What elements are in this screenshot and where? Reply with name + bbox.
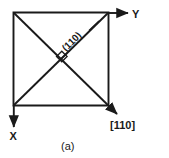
figure-canvas: Y X [110] (110) (a) (0, 0, 169, 158)
figure-caption: (a) (61, 140, 74, 152)
x-axis-label: X (10, 130, 18, 142)
direction-110-label: [110] (110, 119, 135, 131)
direction-110-arrow (14, 13, 117, 114)
crystal-plane-figure: Y X [110] (110) (a) (0, 0, 169, 158)
y-axis-label: Y (132, 8, 140, 20)
